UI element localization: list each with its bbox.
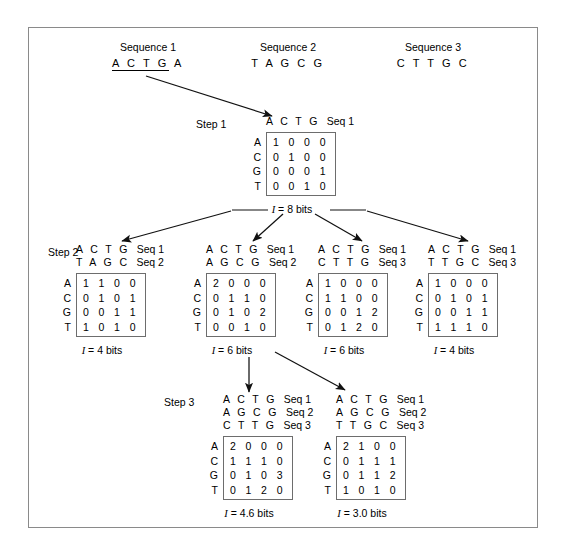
information-content-label: I = 3.0 bits (302, 507, 422, 519)
header-row: A C T GSeq 1 (223, 393, 311, 405)
row-labels: A C G T (248, 135, 261, 193)
info-value: = 3.0 bits (341, 507, 387, 519)
matrix-row: 0 0 1 1 (83, 305, 139, 320)
count-matrix: 1 0 0 0 0 1 0 1 0 0 1 1 1 1 1 0 (428, 273, 498, 337)
row-label-a: A (248, 135, 261, 150)
header-row: A G C GSeq 2 (206, 256, 296, 268)
row-label-a: A (188, 276, 201, 291)
count-matrix: 1 0 0 0 1 1 0 0 0 0 1 2 0 1 2 0 (318, 273, 388, 337)
header-seq: Seq 2 (399, 406, 426, 418)
step-3-label: Step 3 (164, 396, 194, 408)
row-label-t: T (248, 179, 261, 194)
matrix-row: 0 0 1 0 (273, 179, 329, 194)
matrix-row: 1 0 0 0 (273, 135, 329, 150)
figure-canvas: Sequence 1 A C T G A Sequence 2 T A G C … (0, 0, 563, 552)
header-row: A G C GSeq 2 (223, 406, 313, 418)
info-value: = 6 bits (215, 344, 252, 356)
header-seq: Seq 1 (284, 393, 311, 405)
matrix-row: 0 1 0 1 (83, 291, 139, 306)
row-label-a: A (205, 439, 218, 454)
row-labels: A C G T (188, 276, 201, 334)
header-row: C T T GSeq 3 (318, 256, 406, 268)
matrix-row: 0 1 1 2 (343, 468, 399, 483)
information-content-label: I = 8 bits (232, 203, 352, 215)
header-row: C T T GSeq 3 (223, 419, 311, 431)
header-row: A C T GSeq 1 (76, 243, 164, 255)
row-label-c: C (205, 454, 218, 469)
sequence-3-title: Sequence 3 (378, 41, 488, 53)
row-label-t: T (410, 320, 423, 335)
info-value: = 4.6 bits (228, 507, 274, 519)
header-seq: Seq 3 (283, 419, 310, 431)
row-label-g: G (188, 305, 201, 320)
matrix-row: 0 1 2 0 (230, 483, 286, 498)
header-bases: A C T G (428, 243, 482, 255)
info-value: = 4 bits (437, 344, 474, 356)
row-label-t: T (205, 483, 218, 498)
matrix-row: 2 0 0 0 (213, 276, 269, 291)
count-matrix: 2 0 0 0 1 1 1 0 0 1 0 3 0 1 2 0 (223, 436, 293, 500)
count-matrix: 2 1 0 0 0 1 1 1 0 1 1 2 1 0 1 0 (336, 436, 406, 500)
header-seq: Seq 3 (397, 419, 424, 431)
header-row: A C T GSeq 1 (206, 243, 294, 255)
header-seq: Seq 3 (489, 256, 516, 268)
matrix-row: 1 0 1 0 (83, 320, 139, 335)
matrix-row: 2 1 0 0 (343, 439, 399, 454)
header-row: A C T GSeq 1 (266, 115, 354, 127)
matrix-row: 2 0 0 0 (230, 439, 286, 454)
step-1-label: Step 1 (196, 118, 226, 130)
matrix-row: 1 1 0 0 (83, 276, 139, 291)
row-label-g: G (58, 305, 71, 320)
matrix-row: 1 1 1 0 (230, 454, 286, 469)
matrix-row: 0 0 1 1 (435, 305, 491, 320)
sequence-2-title: Sequence 2 (233, 41, 343, 53)
header-row: A C T GSeq 1 (428, 243, 516, 255)
row-label-t: T (300, 320, 313, 335)
header-bases: A C T G (223, 393, 277, 405)
step-2-label: Step 2 (48, 246, 78, 258)
matrix-row: 0 0 0 1 (273, 164, 329, 179)
count-matrix: 1 1 0 0 0 1 0 1 0 0 1 1 1 0 1 0 (76, 273, 146, 337)
header-row: A C T GSeq 1 (318, 243, 406, 255)
header-seq: Seq 1 (327, 115, 354, 127)
row-labels: A C G T (205, 439, 218, 497)
header-row: T T G CSeq 3 (428, 256, 516, 268)
matrix-row: 1 0 0 0 (435, 276, 491, 291)
matrix-row: 0 0 1 2 (325, 305, 381, 320)
row-label-g: G (248, 164, 261, 179)
information-content-label: I = 4 bits (42, 344, 162, 356)
header-seq: Seq 1 (267, 243, 294, 255)
sequence-3-letters: C T T G C (378, 57, 488, 69)
info-value: = 4 bits (85, 344, 122, 356)
row-label-c: C (410, 291, 423, 306)
information-content-label: I = 4.6 bits (189, 507, 309, 519)
row-label-c: C (248, 150, 261, 165)
row-labels: A C G T (318, 439, 331, 497)
header-bases: C T T G (318, 256, 371, 268)
header-bases: T T G C (428, 256, 482, 268)
sequence-1-underlined: A C T G (112, 57, 169, 71)
header-seq: Seq 1 (397, 393, 424, 405)
header-bases: A G C G (206, 256, 262, 268)
header-seq: Seq 2 (136, 256, 163, 268)
row-label-c: C (188, 291, 201, 306)
row-label-g: G (205, 468, 218, 483)
row-label-g: G (410, 305, 423, 320)
row-label-a: A (318, 439, 331, 454)
header-bases: A G C G (223, 406, 279, 418)
row-labels: A C G T (300, 276, 313, 334)
matrix-row: 1 1 1 0 (435, 320, 491, 335)
header-bases: A C T G (336, 393, 390, 405)
row-label-a: A (410, 276, 423, 291)
header-seq: Seq 2 (286, 406, 313, 418)
row-labels: A C G T (410, 276, 423, 334)
info-value: = 8 bits (275, 203, 312, 215)
sequence-2-letters: T A G C G (233, 57, 343, 69)
matrix-row: 0 0 1 0 (213, 320, 269, 335)
matrix-row: 0 1 0 3 (230, 468, 286, 483)
header-seq: Seq 1 (489, 243, 516, 255)
row-label-c: C (58, 291, 71, 306)
matrix-row: 0 1 0 0 (273, 150, 329, 165)
row-label-t: T (58, 320, 71, 335)
header-seq: Seq 2 (269, 256, 296, 268)
